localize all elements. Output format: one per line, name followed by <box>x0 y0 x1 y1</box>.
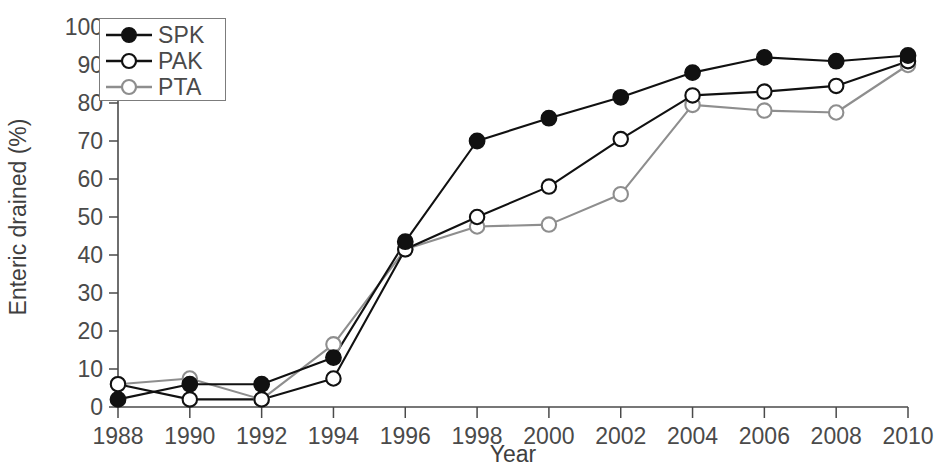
x-tick-label: 1992 <box>236 423 287 449</box>
x-tick-label: 2006 <box>739 423 790 449</box>
chart-legend: SPK PAK PTA <box>99 18 226 101</box>
data-point-spk <box>326 350 341 365</box>
series-markers <box>110 48 915 407</box>
data-point-pak <box>757 84 771 98</box>
data-point-spk <box>182 377 197 392</box>
chart-figure: 0102030405060708090100 19881990199219941… <box>0 0 941 470</box>
data-point-pak <box>470 210 484 224</box>
data-point-pak <box>254 392 268 406</box>
data-point-spk <box>254 377 269 392</box>
data-point-spk <box>900 48 915 63</box>
legend-entry-pta: PTA <box>100 74 227 100</box>
data-point-pak <box>829 79 843 93</box>
x-tick-label: 2008 <box>811 423 862 449</box>
legend-label-pta: PTA <box>158 76 202 98</box>
x-tick-label: 1990 <box>164 423 215 449</box>
x-axis-title: Year <box>490 441 537 467</box>
x-tick-label: 1996 <box>380 423 431 449</box>
data-point-pak <box>685 88 699 102</box>
legend-marker-spk <box>100 24 158 46</box>
y-tick-label: 50 <box>77 204 103 230</box>
data-point-pak <box>326 371 340 385</box>
series-line-spk <box>118 56 908 400</box>
y-axis-title: Enteric drained (%) <box>5 119 31 316</box>
data-point-spk <box>398 234 413 249</box>
legend-entry-spk: SPK <box>100 22 227 48</box>
x-tick-label: 2002 <box>595 423 646 449</box>
legend-label-spk: SPK <box>158 24 205 46</box>
data-point-spk <box>757 50 772 65</box>
data-point-spk <box>829 54 844 69</box>
data-point-spk <box>469 133 484 148</box>
data-point-pta <box>829 105 843 119</box>
data-point-spk <box>541 111 556 126</box>
data-point-pak <box>542 179 556 193</box>
legend-label-pak: PAK <box>158 50 203 72</box>
y-tick-label: 20 <box>77 318 103 344</box>
data-point-spk <box>110 392 125 407</box>
y-tick-label: 100 <box>65 14 103 40</box>
data-point-spk <box>685 65 700 80</box>
x-tick-label: 2004 <box>667 423 718 449</box>
legend-entry-pak: PAK <box>100 48 227 74</box>
x-tick-label: 2010 <box>882 423 933 449</box>
data-point-pta <box>614 187 628 201</box>
data-point-pak <box>111 377 125 391</box>
data-point-spk <box>613 90 628 105</box>
x-tick-label: 1994 <box>308 423 359 449</box>
y-tick-label: 0 <box>90 394 103 420</box>
y-tick-label: 70 <box>77 128 103 154</box>
legend-marker-pak <box>100 50 158 72</box>
y-tick-label: 60 <box>77 166 103 192</box>
data-point-pta <box>542 217 556 231</box>
data-point-pak <box>614 132 628 146</box>
y-tick-label: 10 <box>77 356 103 382</box>
legend-marker-pta <box>100 76 158 98</box>
series-lines <box>118 56 908 400</box>
series-line-pta <box>118 65 908 399</box>
data-point-pta <box>757 103 771 117</box>
data-point-pak <box>183 392 197 406</box>
x-tick-label: 1988 <box>92 423 143 449</box>
y-tick-label: 30 <box>77 280 103 306</box>
y-tick-label: 40 <box>77 242 103 268</box>
